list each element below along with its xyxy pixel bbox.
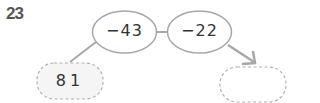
operation-label-2: −22 xyxy=(167,21,232,40)
connector-line xyxy=(70,42,96,62)
arrow-line xyxy=(228,45,254,62)
answer-box[interactable] xyxy=(220,67,286,102)
start-value: 81 xyxy=(37,71,103,90)
operation-label-1: −43 xyxy=(92,21,157,40)
